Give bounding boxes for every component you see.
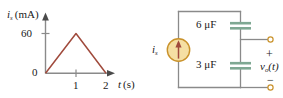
y-tick-label-60: 60 (21, 28, 32, 39)
x-axis-label-unit: (s) (123, 78, 135, 90)
y-axis-label-subscript: s (10, 14, 13, 21)
output-voltage-label: vo(t) (260, 61, 279, 74)
output-voltage-label-arg: (t) (268, 60, 278, 72)
waveform-plot: is(mA) 60 0 1 2 t(s) (0, 0, 141, 98)
output-polarity-plus: + (266, 48, 273, 60)
capacitor-top-label: 6 μF (196, 19, 216, 30)
output-terminal-positive-node (268, 37, 273, 42)
x-axis-arrowhead (107, 70, 115, 77)
circuit-canvas (141, 0, 283, 98)
x-tick-label-2: 2 (103, 80, 109, 91)
y-tick-label-0: 0 (32, 67, 38, 78)
waveform-series (46, 34, 107, 74)
current-source-label: is (152, 44, 158, 57)
y-axis-arrowhead (42, 13, 49, 21)
circuit-schematic: is 6 μF 3 μF + vo(t) − (141, 0, 283, 98)
capacitor-bottom-plates (230, 63, 251, 68)
capacitor-bottom-label: 3 μF (196, 59, 216, 70)
x-tick-label-1: 1 (73, 80, 79, 91)
current-source-label-subscript: s (155, 49, 158, 56)
output-polarity-minus: − (267, 74, 274, 86)
capacitor-top-plates (230, 23, 251, 28)
x-axis-label-symbol: t (118, 78, 121, 90)
figure-root: is(mA) 60 0 1 2 t(s) (0, 0, 283, 98)
y-axis-label-unit: (mA) (15, 8, 39, 20)
y-axis-label: is(mA) (7, 9, 39, 22)
x-axis-label: t(s) (118, 79, 135, 90)
current-source-symbol (167, 39, 189, 61)
